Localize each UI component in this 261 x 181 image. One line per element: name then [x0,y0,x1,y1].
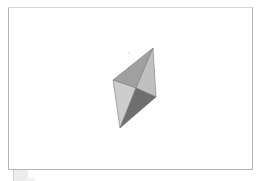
bipyramid-model[interactable] [113,48,156,128]
origin-marker-icon [128,52,130,54]
model-canvas[interactable] [0,0,261,181]
status-strip [27,178,35,181]
thumbnail-tab[interactable] [13,170,28,181]
